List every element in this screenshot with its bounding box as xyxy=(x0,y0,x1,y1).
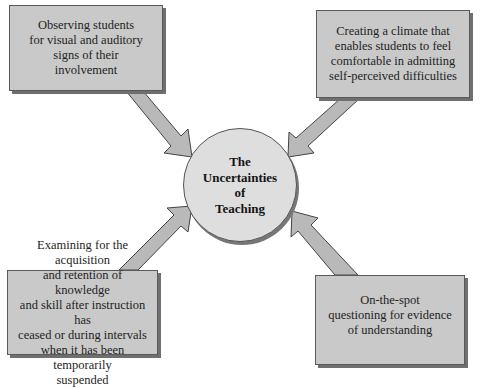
arrow-bottom-right xyxy=(291,211,358,275)
center-hub-circle: The Uncertainties of Teaching xyxy=(183,128,297,242)
arrow-top-left xyxy=(126,91,192,157)
node-box-bottom-left: Examining for the acquisition and retent… xyxy=(7,270,158,355)
node-text-creating-climate: Creating a climate that enables students… xyxy=(329,24,457,84)
node-text-on-the-spot-questioning: On-the-spot questioning for evidence of … xyxy=(328,293,452,338)
node-box-top-left: Observing students for visual and audito… xyxy=(9,5,163,91)
center-hub-label: The Uncertainties of Teaching xyxy=(203,154,277,216)
node-box-bottom-right: On-the-spot questioning for evidence of … xyxy=(315,275,465,365)
node-text-observing-students: Observing students for visual and audito… xyxy=(29,18,143,78)
arrow-top-right xyxy=(288,98,360,157)
node-box-top-right: Creating a climate that enables students… xyxy=(316,10,470,98)
node-text-examining-acquisition: Examining for the acquisition and retent… xyxy=(16,238,149,388)
